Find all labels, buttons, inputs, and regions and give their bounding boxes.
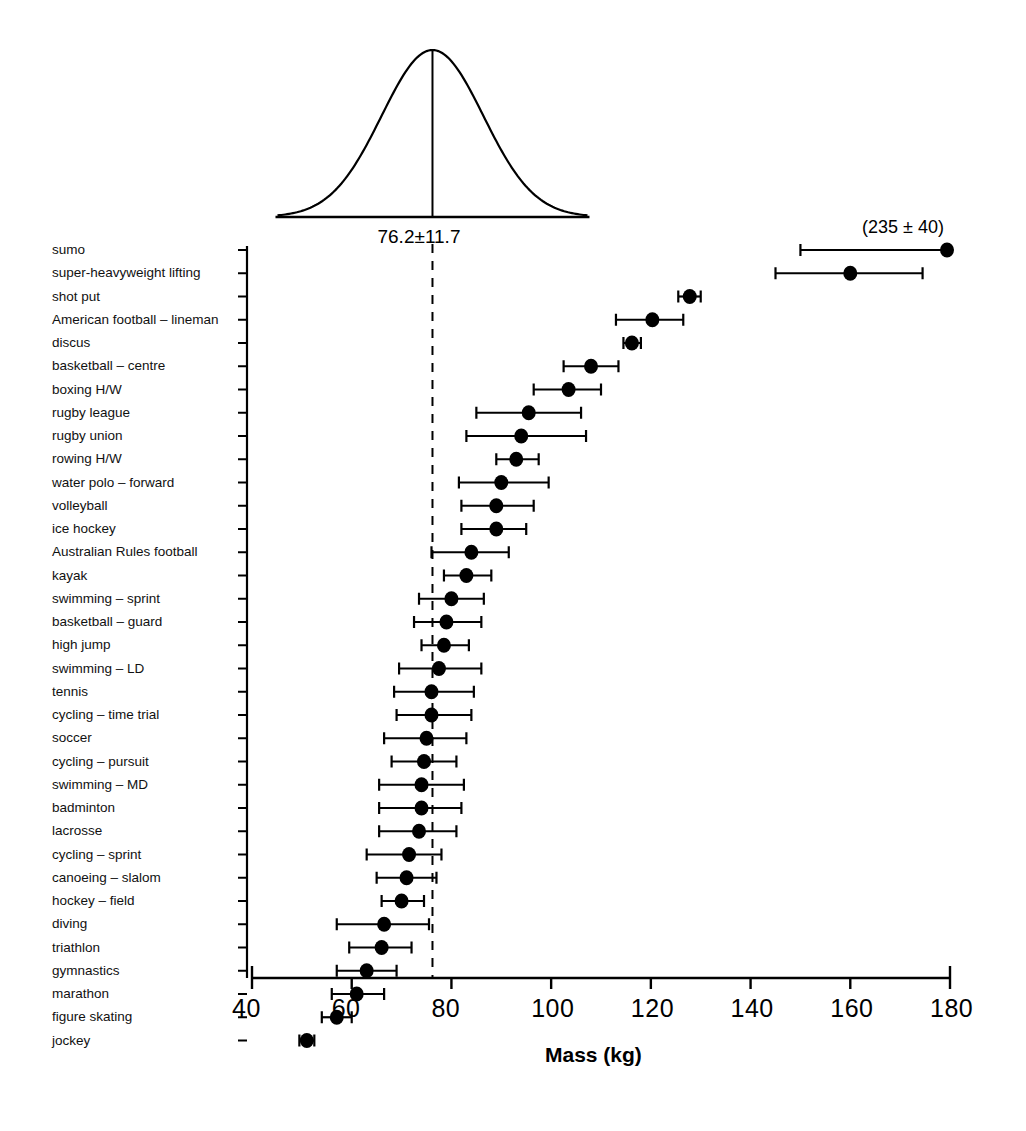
data-point-row [337,963,397,978]
category-label-figure-skating: figure skating [52,1010,132,1024]
mean-marker-dot [494,475,508,490]
curve-mean-label: 76.2±11.7 [377,226,460,248]
mean-marker-dot [683,289,697,304]
mean-marker-dot [625,336,639,351]
data-point-row [476,405,581,420]
data-point-row [337,917,429,932]
category-label-australian-rules-football: Australian Rules football [52,545,198,559]
category-label-water-polo-forward: water polo – forward [52,476,174,490]
x-tick-label-60: 60 [332,994,361,1023]
chart-figure: sumosuper-heavyweight liftingshot putAme… [0,0,1026,1131]
mean-marker-dot [514,429,528,444]
data-point-row [678,289,700,304]
data-point-row [496,452,538,467]
data-point-row [623,336,640,351]
data-points-group [299,243,954,1049]
category-label-discus: discus [52,336,90,350]
mean-marker-dot [412,824,426,839]
mean-marker-dot [940,243,954,258]
category-label-swimming-sprint: swimming – sprint [52,592,160,606]
mean-marker-dot [415,801,429,816]
data-point-row [616,312,683,327]
data-point-row [379,824,456,839]
data-point-row [394,684,474,699]
data-point-row [466,429,586,444]
category-label-cycling-pursuit: cycling – pursuit [52,755,149,769]
data-point-row [776,266,923,281]
data-point-row [382,894,424,909]
x-tick-label-180: 180 [930,994,973,1023]
category-label-rugby-league: rugby league [52,406,130,420]
mean-marker-dot [424,684,438,699]
mean-marker-dot [645,312,659,327]
category-label-high-jump: high jump [52,638,111,652]
mean-marker-dot [424,708,438,723]
data-point-row [414,615,481,630]
mean-marker-dot [437,638,451,653]
data-point-row [800,243,954,258]
mean-marker-dot [444,591,458,606]
mean-marker-dot [395,894,409,909]
category-label-cycling-sprint: cycling – sprint [52,848,141,862]
x-tick-label-80: 80 [431,994,460,1023]
mean-marker-dot [377,917,391,932]
mean-marker-dot [415,777,429,792]
category-label-lacrosse: lacrosse [52,824,102,838]
data-point-row [367,847,442,862]
data-point-row [534,382,601,397]
x-tick-label-120: 120 [631,994,674,1023]
category-label-swimming-ld: swimming – LD [52,662,144,676]
mean-marker-dot [439,615,453,630]
mean-marker-dot [489,522,503,537]
data-point-row [564,359,619,374]
category-label-jockey: jockey [52,1034,90,1048]
mean-marker-dot [843,266,857,281]
mean-marker-dot [464,545,478,560]
category-label-triathlon: triathlon [52,941,100,955]
data-point-row [461,498,533,513]
data-point-row [379,801,461,816]
sumo-offscale-annotation: (235 ± 40) [862,217,944,238]
data-point-row [459,475,549,490]
mean-marker-dot [420,731,434,746]
mean-marker-dot [417,754,431,769]
category-label-tennis: tennis [52,685,88,699]
category-label-kayak: kayak [52,569,87,583]
data-point-row [461,522,526,537]
data-point-row [392,754,457,769]
data-point-row [422,638,469,653]
x-tick-label-40: 40 [232,994,261,1023]
category-label-basketball-centre: basketball – centre [52,359,165,373]
category-label-american-football-lineman: American football – lineman [52,313,219,327]
mean-marker-dot [562,382,576,397]
category-label-sumo: sumo [52,243,85,257]
mean-marker-dot [400,870,414,885]
data-point-row [444,568,491,583]
dot-whisker-plot [0,0,1026,1131]
category-label-gymnastics: gymnastics [52,964,120,978]
mean-marker-dot [402,847,416,862]
x-axis-title: Mass (kg) [545,1043,642,1067]
category-label-boxing-h-w: boxing H/W [52,383,122,397]
mean-marker-dot [489,498,503,513]
mean-marker-dot [509,452,523,467]
category-label-marathon: marathon [52,987,109,1001]
category-label-badminton: badminton [52,801,115,815]
data-point-row [397,708,472,723]
data-point-row [349,940,411,955]
category-label-swimming-md: swimming – MD [52,778,148,792]
normal-curve-group [275,50,589,217]
category-label-rugby-union: rugby union [52,429,123,443]
category-label-cycling-time-trial: cycling – time trial [52,708,159,722]
data-point-row [299,1033,314,1048]
data-point-row [431,545,508,560]
x-tick-label-140: 140 [731,994,774,1023]
mean-marker-dot [360,963,374,978]
category-label-rowing-h-w: rowing H/W [52,452,122,466]
category-label-volleyball: volleyball [52,499,108,513]
data-point-row [377,870,437,885]
mean-marker-dot [300,1033,314,1048]
mean-marker-dot [584,359,598,374]
data-point-row [384,731,466,746]
data-point-row [379,777,464,792]
